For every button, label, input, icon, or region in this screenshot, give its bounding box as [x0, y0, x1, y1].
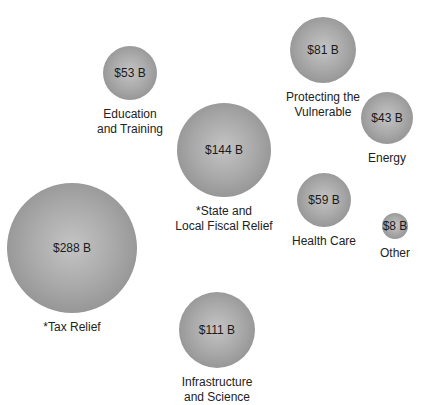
- bubble-value: $111 B: [199, 323, 235, 337]
- bubble-label: Health Care: [292, 234, 356, 249]
- bubble: $43 B: [361, 92, 413, 144]
- bubble-value: $59 B: [308, 193, 339, 207]
- bubble: $8 B: [382, 213, 408, 239]
- bubble: $53 B: [103, 46, 157, 100]
- bubble-value: $8 B: [383, 219, 408, 233]
- bubble-value: $43 B: [371, 111, 402, 125]
- bubble-value: $81 B: [307, 43, 338, 57]
- bubble: $288 B: [7, 183, 137, 313]
- bubble-label: Protecting the Vulnerable: [286, 90, 360, 120]
- bubble-label: Education and Training: [97, 107, 163, 137]
- bubble-value: $288 B: [53, 241, 91, 255]
- bubble-label: Energy: [368, 151, 406, 166]
- bubble: $59 B: [297, 173, 351, 227]
- bubble-label: Infrastructure and Science: [182, 375, 253, 405]
- bubble: $144 B: [177, 103, 271, 197]
- bubble: $81 B: [290, 17, 356, 83]
- bubble: $111 B: [179, 292, 255, 368]
- bubble-value: $144 B: [205, 143, 243, 157]
- bubble-label: *State and Local Fiscal Relief: [175, 204, 272, 234]
- bubble-label: Other: [380, 246, 410, 261]
- bubble-value: $53 B: [114, 66, 145, 80]
- bubble-label: *Tax Relief: [43, 320, 100, 335]
